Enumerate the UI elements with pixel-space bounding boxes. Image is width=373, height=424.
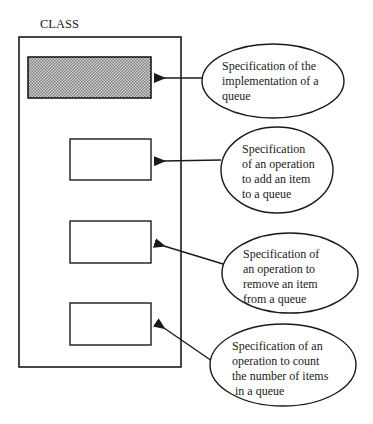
callout-count-operation: Specification of an operation to count t…: [210, 324, 356, 406]
callout-implementation: Specification of the implementation of a…: [202, 44, 344, 118]
implementation-box: [28, 57, 151, 98]
callout-line: queue: [222, 89, 251, 103]
class-label: CLASS: [40, 17, 79, 31]
callout-line: in a queue: [232, 384, 284, 398]
arrow-add-operation: [164, 160, 221, 161]
callout-line: of an operation: [242, 157, 315, 171]
class-diagram: CLASS Specification of the implementatio…: [0, 0, 373, 424]
callout-line: an operation to: [243, 262, 315, 276]
callout-line: Specification of the: [222, 59, 316, 73]
arrow-remove-operation: [164, 246, 223, 264]
callout-line: implementation of a: [222, 74, 319, 88]
callout-line: to add an item: [242, 172, 311, 186]
callout-line: from a queue: [243, 292, 306, 306]
arrow-count-operation: [164, 328, 212, 361]
callout-remove-operation: Specification of an operation to remove …: [222, 233, 358, 313]
count-operation-box: [70, 303, 151, 345]
callout-line: operation to count: [232, 354, 320, 368]
callout-line: Specification: [242, 142, 305, 156]
callout-add-operation: Specification of an operation to add an …: [221, 127, 333, 213]
add-operation-box: [70, 139, 151, 180]
callout-line: to a queue: [242, 187, 291, 201]
remove-operation-box: [70, 221, 151, 263]
callout-line: the number of items: [232, 369, 329, 383]
callout-line: Specification of: [243, 247, 319, 261]
callout-line: Specification of an: [232, 339, 323, 353]
callout-line: remove an item: [243, 277, 318, 291]
